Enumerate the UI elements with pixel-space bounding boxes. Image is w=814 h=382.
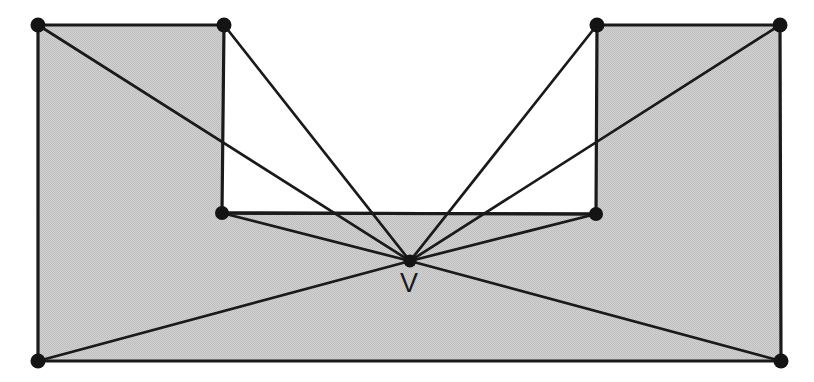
polygon-shaded-region xyxy=(38,25,781,361)
dot-bottom-right xyxy=(774,354,789,369)
figure-canvas: V xyxy=(0,0,814,382)
dot-notch-top-right xyxy=(590,18,605,33)
viewpoint-label-v: V xyxy=(400,268,418,298)
dot-top-right xyxy=(773,18,788,33)
dot-viewpoint-v xyxy=(404,255,417,268)
dot-bottom-left xyxy=(31,354,46,369)
notch-base-edge xyxy=(222,213,596,214)
dot-notch-top-left xyxy=(217,18,232,33)
dot-notch-bottom-right xyxy=(589,207,603,221)
dot-top-left xyxy=(31,18,46,33)
dot-notch-bottom-left xyxy=(215,206,229,220)
polygon-visibility-figure: V xyxy=(0,0,814,382)
